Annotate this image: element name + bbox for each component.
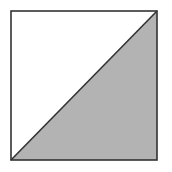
diagonal-square-diagram bbox=[0, 0, 172, 172]
